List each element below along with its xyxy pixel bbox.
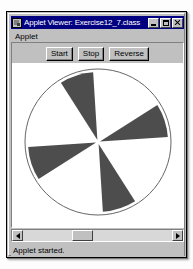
fan-drawing bbox=[12, 63, 183, 227]
scrollbar-thumb[interactable] bbox=[72, 230, 93, 241]
status-message: Applet started. bbox=[11, 246, 65, 255]
maximize-icon bbox=[161, 19, 170, 27]
screen: Applet Viewer: Exercise12_7.class Applet bbox=[0, 0, 193, 269]
control-button-row: Start Stop Reverse bbox=[12, 45, 183, 62]
scroll-left-icon bbox=[16, 233, 20, 239]
minimize-icon bbox=[149, 19, 158, 27]
window-title: Applet Viewer: Exercise12_7.class bbox=[24, 18, 148, 27]
menu-bar: Applet bbox=[11, 30, 184, 42]
status-bar: Applet started. bbox=[11, 243, 184, 257]
scrollbar-track[interactable] bbox=[23, 230, 172, 241]
scroll-left-button[interactable] bbox=[12, 230, 23, 241]
fan-canvas bbox=[12, 63, 183, 227]
scroll-right-icon bbox=[176, 233, 180, 239]
close-button[interactable] bbox=[172, 18, 183, 28]
scroll-right-button[interactable] bbox=[172, 230, 183, 241]
applet-viewer-window: Applet Viewer: Exercise12_7.class Applet bbox=[6, 11, 187, 258]
reverse-button[interactable]: Reverse bbox=[109, 47, 149, 61]
close-icon bbox=[173, 19, 182, 27]
start-button[interactable]: Start bbox=[46, 47, 73, 61]
minimize-button[interactable] bbox=[148, 18, 159, 28]
applet-panel: Start Stop Reverse bbox=[11, 42, 184, 228]
window-inner-frame: Applet Viewer: Exercise12_7.class Applet bbox=[8, 13, 185, 256]
fan-outer-circle bbox=[25, 69, 171, 215]
title-bar[interactable]: Applet Viewer: Exercise12_7.class bbox=[11, 16, 184, 29]
stop-button[interactable]: Stop bbox=[78, 47, 104, 61]
horizontal-scrollbar[interactable] bbox=[11, 229, 184, 242]
menu-item-applet[interactable]: Applet bbox=[12, 32, 41, 41]
applet-viewer-icon bbox=[12, 18, 22, 28]
window-controls bbox=[148, 18, 183, 28]
maximize-button[interactable] bbox=[160, 18, 171, 28]
